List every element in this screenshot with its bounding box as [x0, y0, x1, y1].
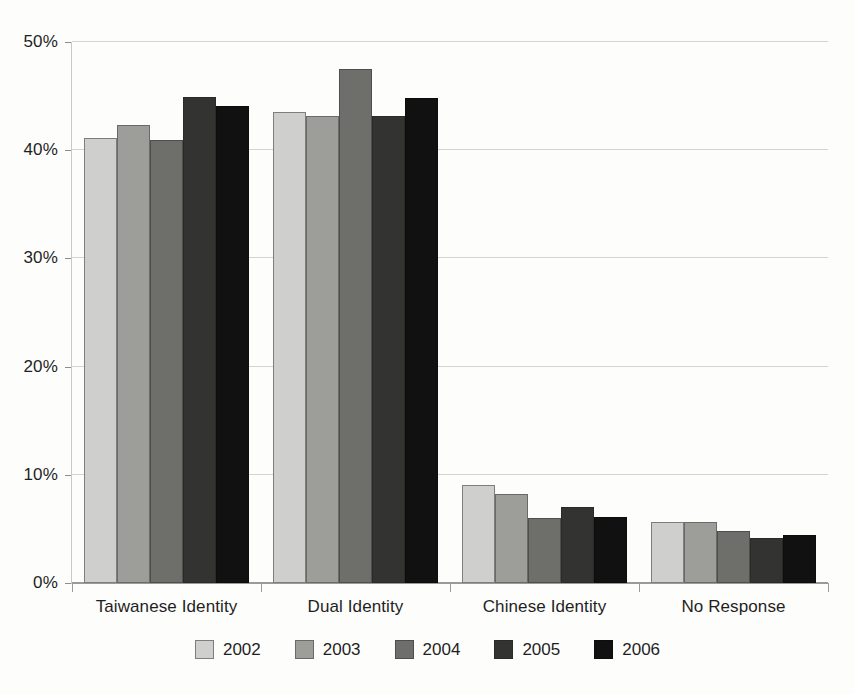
plot-area — [72, 42, 828, 583]
bar — [273, 112, 306, 583]
bar — [594, 517, 627, 583]
legend-label: 2002 — [223, 641, 261, 658]
bar — [339, 69, 372, 583]
legend-item[interactable]: 2002 — [195, 640, 261, 659]
bar — [183, 97, 216, 583]
legend-item[interactable]: 2005 — [494, 640, 560, 659]
bar — [462, 485, 495, 583]
category-label: Dual Identity — [261, 597, 450, 617]
bar — [84, 138, 117, 583]
bar — [216, 106, 249, 583]
y-axis-tick-label: 20% — [0, 358, 58, 375]
y-axis-tick-label: 0% — [0, 574, 58, 591]
bar — [372, 116, 405, 583]
legend-swatch-icon — [295, 640, 314, 659]
legend-label: 2004 — [423, 641, 461, 658]
legend-item[interactable]: 2003 — [295, 640, 361, 659]
y-axis-tick-label: 40% — [0, 141, 58, 158]
bar — [717, 531, 750, 583]
bar-chart: 0%10%20%30%40%50% Taiwanese IdentityDual… — [0, 0, 855, 694]
bar — [495, 494, 528, 583]
chart-legend: 20022003200420052006 — [0, 640, 855, 659]
bar — [150, 140, 183, 583]
legend-swatch-icon — [494, 640, 513, 659]
legend-label: 2005 — [522, 641, 560, 658]
x-axis-tick — [450, 584, 451, 592]
bar — [561, 507, 594, 583]
category-label: Taiwanese Identity — [72, 597, 261, 617]
bar-group — [462, 42, 627, 583]
bar-group — [84, 42, 249, 583]
legend-swatch-icon — [195, 640, 214, 659]
bar — [528, 518, 561, 583]
legend-label: 2006 — [622, 641, 660, 658]
bar — [783, 535, 816, 583]
bar — [750, 538, 783, 583]
bar — [684, 522, 717, 583]
legend-swatch-icon — [395, 640, 414, 659]
category-label: Chinese Identity — [450, 597, 639, 617]
legend-swatch-icon — [594, 640, 613, 659]
x-axis-tick — [261, 584, 262, 592]
legend-item[interactable]: 2006 — [594, 640, 660, 659]
y-axis-tick-label: 50% — [0, 33, 58, 50]
bar-group — [651, 42, 816, 583]
y-axis-tick-label: 30% — [0, 249, 58, 266]
x-axis-tick — [828, 584, 829, 592]
x-axis-tick — [639, 584, 640, 592]
bar — [117, 125, 150, 583]
bar — [405, 98, 438, 583]
bar — [306, 116, 339, 583]
y-axis-tick-label: 10% — [0, 466, 58, 483]
bar-group — [273, 42, 438, 583]
bar — [651, 522, 684, 583]
x-axis-tick — [72, 584, 73, 592]
category-label: No Response — [639, 597, 828, 617]
legend-item[interactable]: 2004 — [395, 640, 461, 659]
legend-label: 2003 — [323, 641, 361, 658]
